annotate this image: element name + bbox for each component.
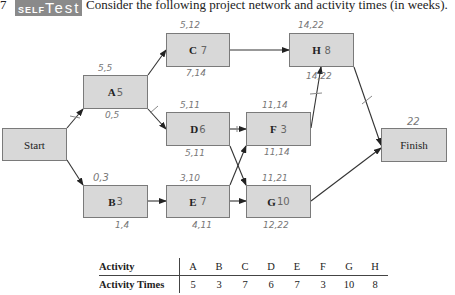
annot-g-bottom: 12,22 [263, 220, 289, 230]
activity-times-table: Activity A B C D E F G H Activity Times … [99, 258, 388, 293]
node-c-duration: 7 [201, 45, 207, 56]
node-f-label: F [270, 123, 277, 135]
node-f: F 3 [246, 112, 311, 146]
activity-cell: F [310, 258, 336, 276]
activity-cell: H [362, 258, 388, 276]
node-h-duration: 8 [324, 45, 330, 56]
node-a-duration: 5 [117, 87, 123, 98]
node-h-label: H [312, 44, 321, 56]
annot-c-bottom: 7,14 [186, 68, 206, 78]
annot-c-top: 5,12 [180, 20, 200, 30]
annot-h-top: 14,22 [298, 20, 324, 30]
node-finish-label: Finish [400, 139, 428, 151]
annot-h-bottom: 14,22 [306, 71, 332, 81]
node-finish: Finish [381, 128, 447, 162]
annot-d-top: 5,11 [180, 100, 200, 110]
time-cell: 7 [284, 276, 310, 294]
node-g: G10 [246, 185, 311, 218]
time-cell: 5 [180, 276, 207, 294]
row-label-activity: Activity [99, 258, 180, 276]
node-start: Start [2, 128, 67, 161]
node-d-duration: 6 [199, 124, 205, 135]
node-start-label: Start [24, 139, 45, 151]
node-e-duration: 7 [200, 196, 206, 207]
time-cell: 8 [362, 276, 388, 294]
node-g-label: G [267, 196, 276, 208]
annot-e-top: 3,10 [180, 173, 200, 183]
time-cell: 7 [232, 276, 258, 294]
table-row-activity: Activity A B C D E F G H [99, 258, 388, 276]
annot-a-bottom: 0,5 [105, 110, 119, 120]
node-d-label: D [190, 123, 198, 135]
row-label-times: Activity Times [99, 276, 180, 294]
node-a-label: A [108, 86, 116, 98]
table-row-times: Activity Times 5 3 7 6 7 3 10 8 [99, 276, 388, 294]
activity-cell: D [258, 258, 284, 276]
time-cell: 6 [258, 276, 284, 294]
annot-e-bottom: 4,11 [192, 220, 212, 230]
node-g-duration: 10 [277, 196, 290, 207]
time-cell: 3 [206, 276, 232, 294]
activity-cell: C [232, 258, 258, 276]
annot-d-bottom: 5,11 [185, 148, 205, 158]
time-cell: 3 [310, 276, 336, 294]
node-h: H 8 [289, 33, 354, 67]
annot-a-top: 5,5 [98, 63, 112, 73]
node-e: E 7 [166, 185, 230, 218]
annot-f-top: 11,14 [262, 100, 288, 110]
node-b: B3 [83, 185, 148, 218]
node-c: C 7 [166, 33, 230, 67]
activity-cell: E [284, 258, 310, 276]
node-b-label: B [108, 196, 115, 208]
node-f-duration: 3 [281, 124, 287, 135]
annot-g-top: 11,21 [262, 173, 288, 183]
node-a: A5 [83, 75, 148, 109]
time-cell: 10 [336, 276, 362, 294]
annot-b-bottom: 1,4 [115, 220, 129, 230]
node-d: D6 [166, 112, 230, 146]
activity-cell: B [206, 258, 232, 276]
activity-cell: G [336, 258, 362, 276]
node-c-label: C [189, 44, 197, 56]
activity-cell: A [180, 258, 207, 276]
node-b-duration: 3 [116, 196, 122, 207]
node-e-label: E [189, 196, 196, 208]
annot-f-bottom: 11,14 [264, 147, 290, 157]
annot-finish: 22 [407, 116, 420, 127]
annot-b-top: 0,3 [93, 172, 109, 183]
